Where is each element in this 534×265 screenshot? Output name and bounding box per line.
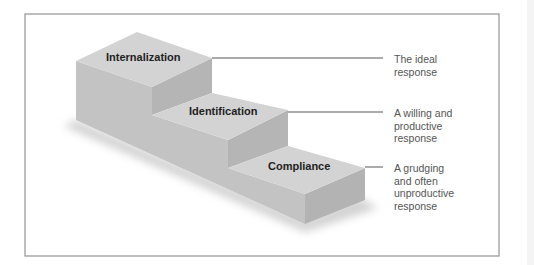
description-line: productive bbox=[394, 120, 452, 133]
description-line: and often bbox=[394, 175, 454, 188]
description-line: response bbox=[394, 66, 437, 79]
description-compliance: A grudging and often unproductive respon… bbox=[394, 162, 454, 212]
staircase-diagram bbox=[0, 0, 534, 265]
description-line: response bbox=[394, 200, 454, 213]
step-label-internalization: Internalization bbox=[106, 51, 181, 63]
description-line: unproductive bbox=[394, 187, 454, 200]
step-label-compliance: Compliance bbox=[268, 160, 330, 172]
description-line: A grudging bbox=[394, 162, 454, 175]
description-line: response bbox=[394, 132, 452, 145]
description-internalization: The ideal response bbox=[394, 53, 437, 78]
description-identification: A willing and productive response bbox=[394, 107, 452, 145]
description-line: A willing and bbox=[394, 107, 452, 120]
description-line: The ideal bbox=[394, 53, 437, 66]
step-label-identification: Identification bbox=[189, 105, 257, 117]
